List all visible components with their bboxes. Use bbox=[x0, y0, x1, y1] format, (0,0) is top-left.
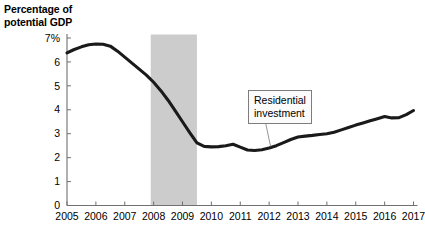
x-tick-label: 2007 bbox=[113, 210, 137, 222]
axis-lines bbox=[67, 34, 418, 206]
recession-band-rect bbox=[151, 35, 197, 206]
x-tick-label: 2005 bbox=[55, 210, 79, 222]
x-tick-label: 2008 bbox=[142, 210, 166, 222]
callout-label-line-1: Residential bbox=[254, 94, 306, 107]
y-tick-label: 2 bbox=[54, 151, 60, 163]
y-tick-label: 4 bbox=[54, 103, 60, 115]
x-tick-label: 2010 bbox=[200, 210, 224, 222]
y-tick-label: 3 bbox=[54, 127, 60, 139]
x-axis-ticks: 2005200620072008200920102011201220132014… bbox=[55, 202, 425, 223]
y-tick-label: 1 bbox=[54, 175, 60, 187]
data-series-line bbox=[67, 44, 414, 150]
plot-area: 01234567% 200520062007200820092010201120… bbox=[0, 0, 425, 228]
x-tick-label: 2014 bbox=[315, 210, 339, 222]
x-tick-label: 2009 bbox=[171, 210, 195, 222]
callout-label-line-2: investment bbox=[254, 107, 306, 120]
y-tick-label: 7% bbox=[45, 32, 60, 44]
residential-investment-chart: Percentage of potential GDP 01234567% 20… bbox=[0, 0, 425, 228]
x-tick-label: 2011 bbox=[229, 210, 252, 222]
x-tick-label: 2006 bbox=[84, 210, 108, 222]
x-tick-label: 2015 bbox=[344, 210, 368, 222]
x-tick-label: 2013 bbox=[286, 210, 310, 222]
x-tick-label: 2017 bbox=[402, 210, 425, 222]
y-tick-label: 5 bbox=[54, 80, 60, 92]
x-tick-label: 2012 bbox=[257, 210, 281, 222]
residential-investment-callout: Residential investment bbox=[248, 90, 312, 124]
x-tick-label: 2016 bbox=[373, 210, 397, 222]
recession-band bbox=[151, 35, 197, 206]
y-tick-label: 6 bbox=[54, 56, 60, 68]
